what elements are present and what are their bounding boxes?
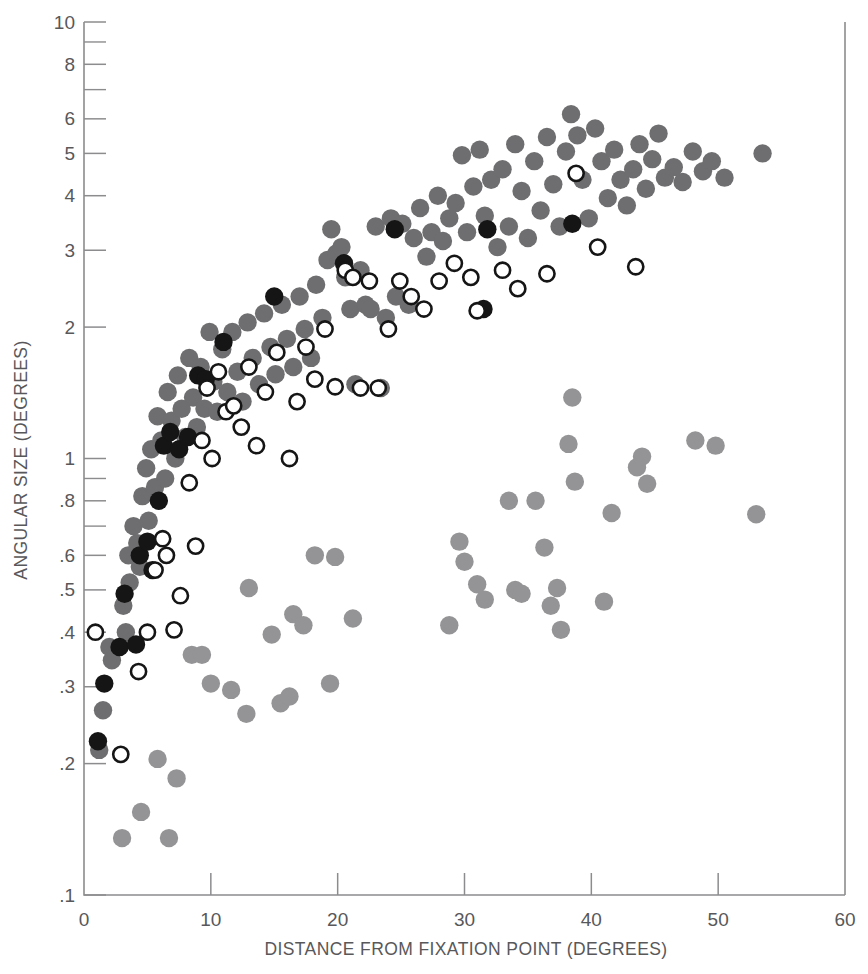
data-point bbox=[88, 625, 103, 640]
data-point bbox=[182, 475, 197, 490]
data-point bbox=[602, 504, 620, 522]
data-point bbox=[150, 492, 168, 510]
y-tick-label: .1 bbox=[59, 885, 75, 906]
data-point bbox=[159, 548, 174, 563]
data-point bbox=[95, 674, 113, 692]
data-point bbox=[160, 829, 178, 847]
data-point bbox=[255, 304, 273, 322]
data-point bbox=[345, 270, 360, 285]
data-point bbox=[542, 597, 560, 615]
data-point bbox=[139, 512, 157, 530]
data-point bbox=[202, 674, 220, 692]
data-point bbox=[317, 321, 332, 336]
data-point bbox=[381, 321, 396, 336]
data-point bbox=[322, 220, 340, 238]
x-tick-label: 40 bbox=[581, 909, 602, 930]
y-tick-label: .2 bbox=[59, 753, 75, 774]
data-point bbox=[131, 664, 146, 679]
x-tick-label: 20 bbox=[327, 909, 348, 930]
data-point bbox=[282, 451, 297, 466]
scatter-plot-figure: .1.2.3.4.5.6.8123456810 0102030405060 AN… bbox=[0, 0, 868, 974]
y-tick-label: 6 bbox=[64, 108, 75, 129]
data-point bbox=[194, 433, 209, 448]
data-point bbox=[280, 687, 298, 705]
data-point bbox=[307, 276, 325, 294]
data-point bbox=[240, 579, 258, 597]
data-point bbox=[552, 621, 570, 639]
data-point bbox=[563, 215, 581, 233]
data-point bbox=[562, 105, 580, 123]
data-point bbox=[531, 201, 549, 219]
data-point bbox=[110, 638, 128, 656]
data-point bbox=[404, 289, 419, 304]
data-point bbox=[557, 142, 575, 160]
y-tick-label: .4 bbox=[59, 622, 75, 643]
y-tick-label: 8 bbox=[64, 54, 75, 75]
data-point bbox=[328, 379, 343, 394]
data-point bbox=[416, 301, 431, 316]
data-point bbox=[488, 238, 506, 256]
y-tick-label: 3 bbox=[64, 240, 75, 261]
data-point bbox=[155, 531, 170, 546]
data-point bbox=[580, 209, 598, 227]
data-point bbox=[138, 532, 156, 550]
data-point bbox=[137, 459, 155, 477]
data-point bbox=[440, 616, 458, 634]
data-point bbox=[633, 447, 651, 465]
data-point bbox=[599, 189, 617, 207]
data-point bbox=[706, 436, 724, 454]
data-point bbox=[595, 592, 613, 610]
x-tick-label: 50 bbox=[708, 909, 729, 930]
data-point bbox=[493, 160, 511, 178]
data-point bbox=[89, 732, 107, 750]
data-point bbox=[321, 674, 339, 692]
data-point bbox=[344, 609, 362, 627]
data-point bbox=[586, 119, 604, 137]
y-tick-label: 5 bbox=[64, 143, 75, 164]
data-point bbox=[332, 238, 350, 256]
data-point bbox=[747, 505, 765, 523]
x-tick-label: 30 bbox=[454, 909, 475, 930]
data-point bbox=[353, 380, 368, 395]
data-point bbox=[686, 431, 704, 449]
y-axis-ticks bbox=[84, 22, 106, 895]
data-point bbox=[307, 372, 322, 387]
data-point bbox=[630, 135, 648, 153]
data-point bbox=[156, 469, 174, 487]
data-point bbox=[464, 177, 482, 195]
data-point bbox=[113, 829, 131, 847]
data-point bbox=[673, 173, 691, 191]
data-point bbox=[563, 388, 581, 406]
y-axis-title: ANGULAR SIZE (DEGREES) bbox=[11, 340, 31, 579]
data-point bbox=[559, 435, 577, 453]
data-point bbox=[326, 548, 344, 566]
data-point bbox=[643, 150, 661, 168]
data-point bbox=[226, 398, 241, 413]
data-point bbox=[265, 287, 283, 305]
data-point bbox=[295, 320, 313, 338]
data-point bbox=[500, 217, 518, 235]
data-point bbox=[618, 196, 636, 214]
data-point bbox=[684, 142, 702, 160]
y-tick-label: 2 bbox=[64, 317, 75, 338]
data-point bbox=[548, 579, 566, 597]
data-point bbox=[263, 625, 281, 643]
data-point bbox=[417, 247, 435, 265]
plot-background bbox=[0, 0, 868, 974]
y-tick-label: 1 bbox=[64, 448, 75, 469]
data-point bbox=[476, 590, 494, 608]
data-point bbox=[539, 266, 554, 281]
data-point bbox=[159, 383, 177, 401]
x-tick-label: 60 bbox=[834, 909, 855, 930]
data-point bbox=[148, 750, 166, 768]
data-point bbox=[294, 616, 312, 634]
data-point bbox=[429, 187, 447, 205]
data-point bbox=[624, 160, 642, 178]
data-point bbox=[512, 182, 530, 200]
data-point bbox=[637, 180, 655, 198]
data-point bbox=[525, 152, 543, 170]
data-point bbox=[519, 229, 537, 247]
data-point bbox=[455, 553, 473, 571]
data-point bbox=[237, 705, 255, 723]
data-point bbox=[569, 166, 584, 181]
